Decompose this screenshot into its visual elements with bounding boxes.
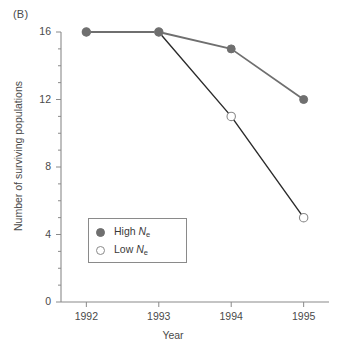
y-tick-label: 16	[21, 26, 51, 36]
legend: High Ne Low Ne	[88, 218, 187, 263]
data-point-low-ne	[299, 213, 307, 221]
plot-area	[0, 0, 346, 352]
x-tick-label: 1993	[135, 310, 183, 322]
data-point-low-ne	[227, 112, 235, 120]
x-tick-label: 1995	[280, 310, 328, 322]
filled-circle-icon	[96, 228, 105, 237]
y-tick-label: 0	[21, 296, 51, 306]
legend-item-low-ne: Low Ne	[96, 241, 148, 259]
data-point-high-ne	[155, 28, 163, 36]
data-point-high-ne	[82, 28, 90, 36]
x-tick-label: 1994	[207, 310, 255, 322]
x-tick-label: 1992	[62, 310, 110, 322]
y-tick-label: 8	[21, 161, 51, 171]
legend-item-label: Low Ne	[114, 243, 148, 257]
legend-item-high-ne: High Ne	[96, 223, 150, 241]
data-point-high-ne	[300, 96, 308, 104]
figure-panel-b: (B) Number of surviving populations Year…	[0, 0, 346, 352]
open-circle-icon	[96, 246, 105, 255]
data-point-high-ne	[227, 45, 235, 53]
legend-item-label: High Ne	[114, 225, 150, 239]
y-tick-label: 4	[21, 229, 51, 239]
axes	[56, 32, 329, 307]
data-series	[82, 28, 308, 222]
y-tick-label: 12	[21, 94, 51, 104]
